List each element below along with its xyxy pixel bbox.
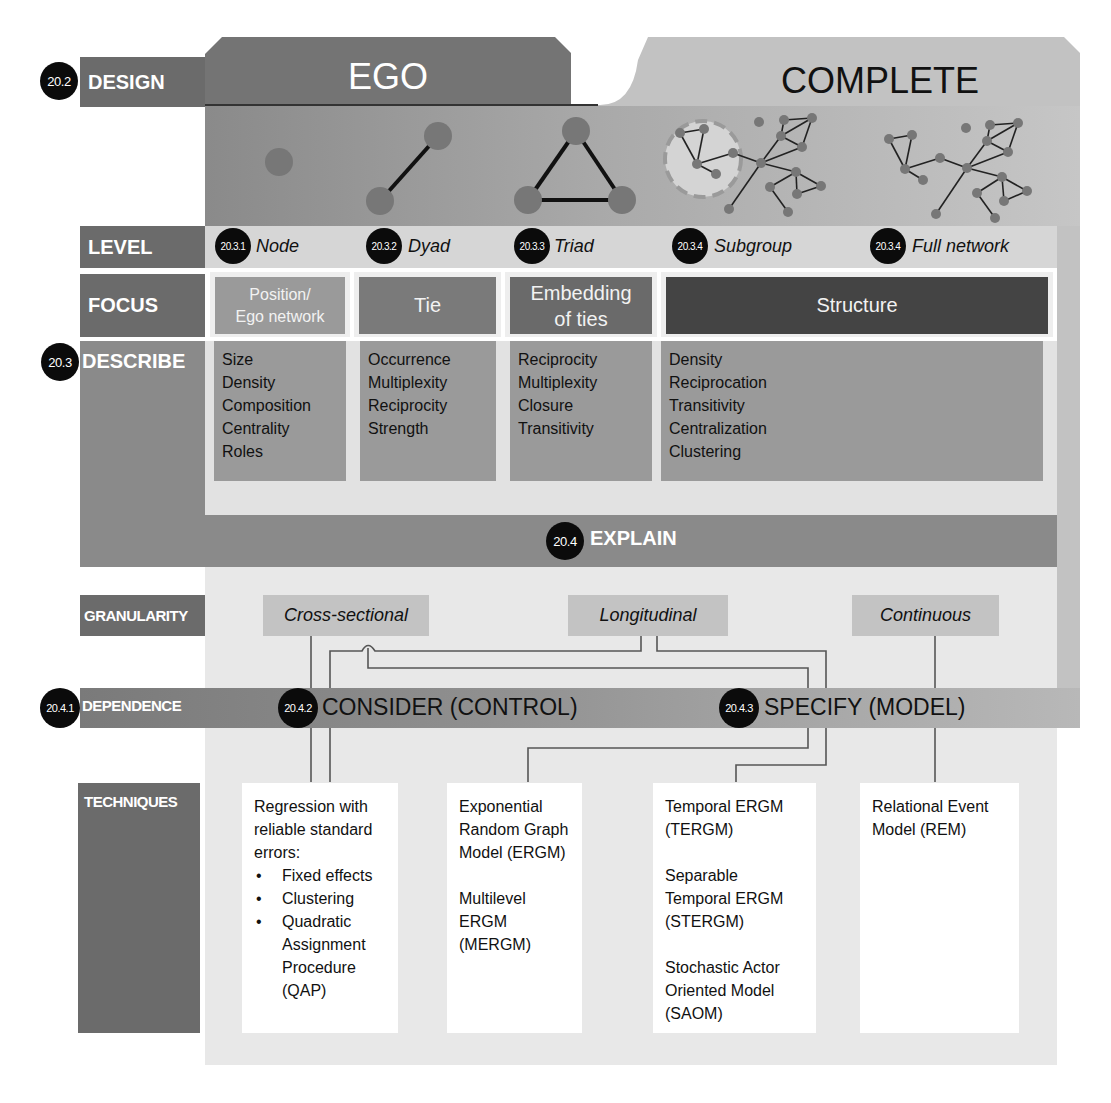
technique-text: Separable Temporal ERGM (STERGM): [665, 864, 804, 933]
technique-text: Multilevel ERGM (MERGM): [459, 887, 570, 956]
technique-text: Regression with reliable standard errors…: [254, 795, 386, 864]
technique-temporal: Temporal ERGM (TERGM) Separable Temporal…: [653, 783, 816, 1033]
technique-regression: Regression with reliable standard errors…: [242, 783, 398, 1033]
technique-text: Relational Event Model (REM): [872, 795, 1007, 841]
technique-rem: Relational Event Model (REM): [860, 783, 1019, 1033]
technique-bullet: Clustering: [254, 887, 386, 910]
techniques-row-label: TECHNIQUES: [78, 783, 200, 1033]
technique-bullet: Quadratic Assignment Procedure (QAP): [254, 910, 386, 1002]
specify-badge: 20.4.3: [719, 688, 759, 728]
dependence-label: DEPENDENCE: [82, 697, 181, 714]
specify-label: SPECIFY (MODEL): [764, 694, 966, 721]
techniques-label: TECHNIQUES: [84, 793, 177, 810]
technique-text: Stochastic Actor Oriented Model (SAOM): [665, 956, 804, 1025]
technique-text: Exponential Random Graph Model (ERGM): [459, 795, 570, 864]
technique-text: Temporal ERGM (TERGM): [665, 795, 804, 841]
consider-label: CONSIDER (CONTROL): [322, 694, 578, 721]
technique-bullets: Fixed effects Clustering Quadratic Assig…: [254, 864, 386, 1002]
dependence-badge: 20.4.1: [40, 688, 80, 728]
technique-ergm: Exponential Random Graph Model (ERGM) Mu…: [447, 783, 582, 1033]
technique-bullet: Fixed effects: [254, 864, 386, 887]
consider-badge: 20.4.2: [278, 688, 318, 728]
